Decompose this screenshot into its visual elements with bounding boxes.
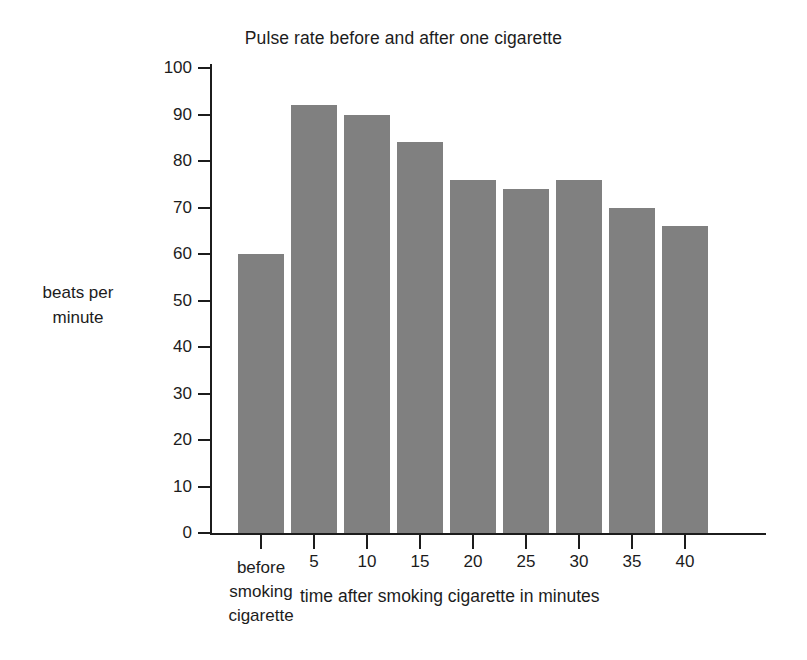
- bar: [662, 226, 708, 533]
- bar: [238, 254, 284, 533]
- bar-chart: Pulse rate before and after one cigarett…: [0, 0, 807, 660]
- y-axis-tick-label: 90: [140, 106, 192, 123]
- x-axis-line: [210, 533, 766, 535]
- x-axis-tick: [578, 535, 580, 549]
- x-axis-tick-label: 25: [506, 552, 546, 571]
- x-axis-tick: [260, 535, 262, 549]
- y-axis-tick-label-text: 70: [146, 199, 192, 216]
- y-axis-tick-label-text: 30: [146, 385, 192, 402]
- y-axis-tick-label: 60: [140, 245, 192, 262]
- x-axis-tick: [419, 535, 421, 549]
- y-axis-tick-label: 70: [140, 199, 192, 216]
- y-axis-tick-label-text: 50: [146, 292, 192, 309]
- y-axis-tick-label: 20: [140, 431, 192, 448]
- x-axis-tick-label: 35: [612, 552, 652, 571]
- y-axis-tick-label: 10: [140, 478, 192, 495]
- x-axis-tick-label: beforesmokingcigarette: [218, 556, 304, 628]
- bar: [450, 180, 496, 533]
- chart-title: Pulse rate before and after one cigarett…: [0, 28, 807, 49]
- x-axis-tick: [472, 535, 474, 549]
- x-axis-tick: [631, 535, 633, 549]
- y-axis-tick-label: 100: [140, 59, 192, 76]
- bar: [291, 105, 337, 533]
- x-axis-tick-label: 20: [453, 552, 493, 571]
- bar: [503, 189, 549, 533]
- y-axis-tick-label-text: 100: [146, 59, 192, 76]
- bar: [397, 142, 443, 533]
- plot-area: [210, 68, 766, 533]
- x-axis-tick-label: 10: [347, 552, 387, 571]
- y-axis-tick-label-text: 60: [146, 245, 192, 262]
- x-axis-tick-label: 40: [665, 552, 705, 571]
- y-axis-title-line-1: beats per: [14, 280, 142, 305]
- x-axis-tick-label: 30: [559, 552, 599, 571]
- y-axis-tick-label-text: 80: [146, 152, 192, 169]
- y-axis-tick-label: 50: [140, 292, 192, 309]
- x-axis-tick-label: 15: [400, 552, 440, 571]
- x-axis-tick: [313, 535, 315, 549]
- y-axis-tick-label-text: 10: [146, 478, 192, 495]
- y-axis-tick-label-text: 0: [146, 524, 192, 541]
- x-axis-tick-label: 5: [294, 552, 334, 571]
- x-axis-tick-label-line: cigarette: [218, 604, 304, 628]
- x-axis-tick-label-line: smoking: [218, 580, 304, 604]
- x-axis-tick-label-line: before: [218, 556, 304, 580]
- y-axis-tick-label-text: 20: [146, 431, 192, 448]
- x-axis-tick: [525, 535, 527, 549]
- x-axis-tick: [684, 535, 686, 549]
- x-axis-title: time after smoking cigarette in minutes: [300, 586, 600, 607]
- y-axis-title-line-2: minute: [14, 305, 142, 330]
- y-axis-title: beats per minute: [14, 280, 142, 330]
- bar: [344, 115, 390, 534]
- bar: [556, 180, 602, 533]
- bar: [609, 208, 655, 534]
- y-axis-tick-label: 30: [140, 385, 192, 402]
- y-axis-tick-label: 40: [140, 338, 192, 355]
- y-axis-tick-label-text: 40: [146, 338, 192, 355]
- y-axis-tick-label: 80: [140, 152, 192, 169]
- y-axis-tick-label-text: 90: [146, 106, 192, 123]
- x-axis-tick: [366, 535, 368, 549]
- y-axis-tick-label: 0: [140, 524, 192, 541]
